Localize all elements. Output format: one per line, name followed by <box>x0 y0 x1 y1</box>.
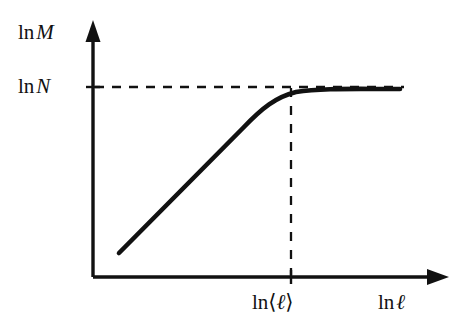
x-axis-tick-label-operator: ln <box>252 290 268 314</box>
y-axis <box>86 20 101 277</box>
x-axis <box>93 269 449 285</box>
plot-canvas <box>0 0 464 332</box>
angle-bracket-close: ⟩ <box>285 290 293 314</box>
x-axis-label-operator: ln <box>378 290 394 314</box>
angle-bracket-open: ⟨ <box>268 290 276 314</box>
chart-figure: lnM lnN ln⟨ℓ⟩ lnℓ <box>0 0 464 332</box>
x-axis-tick-label: ln⟨ℓ⟩ <box>252 292 294 313</box>
y-axis-label-operator: ln <box>18 20 34 44</box>
x-axis-label-variable: ℓ <box>394 290 405 314</box>
y-axis-tick-label: lnN <box>18 76 50 97</box>
y-axis-tick-label-operator: ln <box>18 74 34 98</box>
y-axis-label-variable: M <box>34 20 54 44</box>
x-axis-label: lnℓ <box>378 292 405 313</box>
y-axis-label: lnM <box>18 22 54 43</box>
x-axis-tick-label-variable: ℓ <box>277 290 286 314</box>
y-axis-tick-label-variable: N <box>34 74 50 98</box>
mass-scaling-curve <box>119 89 400 253</box>
